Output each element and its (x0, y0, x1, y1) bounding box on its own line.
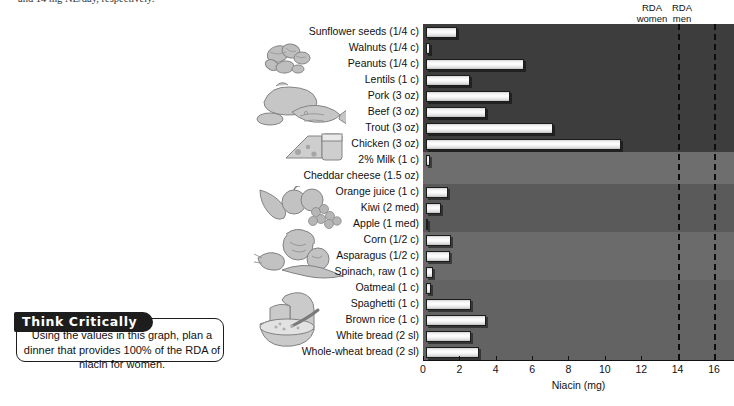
x-tick-16 (714, 356, 715, 361)
x-tick-label-4: 4 (481, 363, 511, 375)
x-tick-label-12: 12 (626, 363, 656, 375)
category-label-oatmeal-1-c: Oatmeal (1 c) (169, 281, 419, 293)
bar-chicken-3-oz (426, 139, 621, 150)
rda-men-annotation-label: RDA men (659, 2, 705, 24)
category-label-apple-1-med: Apple (1 med) (169, 217, 419, 229)
x-tick-6 (532, 356, 533, 361)
bar-walnuts-1-4-c (426, 43, 430, 54)
x-tick-12 (641, 356, 642, 361)
x-tick-4 (496, 356, 497, 361)
bar-lentils-1-c (426, 75, 470, 86)
rda-men-line2: men (673, 13, 691, 24)
x-tick-label-0: 0 (408, 363, 438, 375)
x-tick-8 (568, 356, 569, 361)
bar-whole-wheat-bread-2-sl (426, 347, 479, 358)
bar-kiwi-2-med (426, 203, 441, 214)
group-band-dairy (423, 152, 734, 184)
category-label-cheddar-cheese-1-5-oz: Cheddar cheese (1.5 oz) (169, 169, 419, 181)
think-critically-body-text: Using the values in this graph, plan a d… (20, 328, 224, 372)
bar-oatmeal-1-c (426, 283, 431, 294)
bar-white-bread-2-sl (426, 331, 471, 342)
x-tick-2 (459, 356, 460, 361)
rda-men-line1: RDA (672, 2, 692, 13)
category-label-corn-1-2-c: Corn (1/2 c) (169, 233, 419, 245)
bar-apple-1-med (426, 219, 428, 230)
x-tick-label-6: 6 (517, 363, 547, 375)
bar-peanuts-1-4-c (426, 59, 524, 70)
bar-sunflower-seeds-1-4-c (426, 27, 457, 38)
category-label-asparagus-1-2-c: Asparagus (1/2 c) (169, 249, 419, 261)
category-label-spaghetti-1-c: Spaghetti (1 c) (169, 297, 419, 309)
x-axis-line (423, 360, 734, 361)
bar-brown-rice-1-c (426, 315, 486, 326)
category-label-sunflower-seeds-1-4-c: Sunflower seeds (1/4 c) (169, 25, 419, 37)
x-tick-10 (605, 356, 606, 361)
group-band-fruit (423, 184, 734, 232)
x-tick-14 (678, 356, 679, 361)
category-label-kiwi-2-med: Kiwi (2 med) (169, 201, 419, 213)
category-label-spinach-raw-1-c: Spinach, raw (1 c) (169, 265, 419, 277)
category-label-beef-3-oz: Beef (3 oz) (169, 105, 419, 117)
group-band-vegetables (423, 232, 734, 280)
bar-spinach-raw-1-c (426, 267, 433, 278)
category-label-2-milk-1-c: 2% Milk (1 c) (169, 153, 419, 165)
bar-pork-3-oz (426, 91, 510, 102)
plot-area (423, 24, 734, 360)
bar-beef-3-oz (426, 107, 486, 118)
rda-line-rda-women (678, 24, 680, 360)
bar-corn-1-2-c (426, 235, 451, 246)
category-label-chicken-3-oz: Chicken (3 oz) (169, 137, 419, 149)
x-axis-title: Niacin (mg) (423, 379, 734, 391)
category-label-peanuts-1-4-c: Peanuts (1/4 c) (169, 57, 419, 69)
x-tick-label-16: 16 (699, 363, 729, 375)
bar-spaghetti-1-c (426, 299, 471, 310)
bar-trout-3-oz (426, 123, 553, 134)
x-tick-label-10: 10 (590, 363, 620, 375)
category-label-walnuts-1-4-c: Walnuts (1/4 c) (169, 41, 419, 53)
category-label-trout-3-oz: Trout (3 oz) (169, 121, 419, 133)
x-tick-label-14: 14 (663, 363, 693, 375)
bar-orange-juice-1-c (426, 187, 448, 198)
x-tick-label-2: 2 (444, 363, 474, 375)
x-tick-0 (423, 356, 424, 361)
bar-2-milk-1-c (426, 155, 430, 166)
x-tick-label-8: 8 (553, 363, 583, 375)
category-label-orange-juice-1-c: Orange juice (1 c) (169, 185, 419, 197)
category-label-pork-3-oz: Pork (3 oz) (169, 89, 419, 101)
bar-asparagus-1-2-c (426, 251, 450, 262)
category-label-lentils-1-c: Lentils (1 c) (169, 73, 419, 85)
rda-line-rda-men (714, 24, 716, 360)
